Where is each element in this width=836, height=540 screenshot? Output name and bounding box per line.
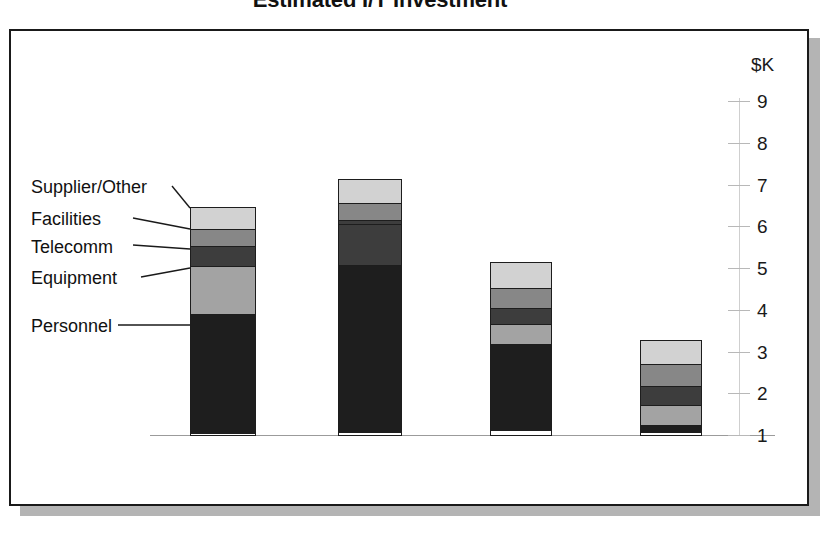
chart-plate [9, 29, 809, 506]
chart-root: Estimated I/T Investment $K 9 8 7 6 5 4 … [0, 0, 836, 540]
chart-title: Estimated I/T Investment [0, 0, 760, 13]
